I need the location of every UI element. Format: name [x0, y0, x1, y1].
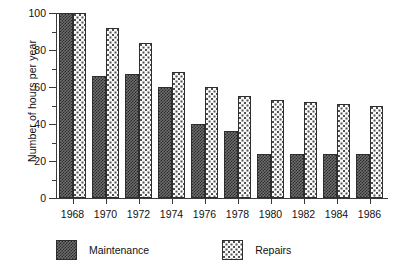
- bar-maintenance-1970: [92, 76, 106, 198]
- bar-chart: Number of hours per year 020406080100 19…: [0, 0, 402, 265]
- bar-repairs-1984: [337, 104, 351, 198]
- x-tick-label: 1982: [292, 208, 315, 220]
- bar-repairs-1986: [370, 106, 384, 199]
- bar-maintenance-1976: [191, 124, 205, 198]
- bar-repairs-1978: [238, 96, 252, 198]
- y-tick-major: [49, 161, 56, 162]
- y-tick-major: [49, 13, 56, 14]
- bar-maintenance-1978: [224, 131, 238, 198]
- bar-maintenance-1980: [257, 154, 271, 198]
- y-tick-label: 80: [34, 44, 46, 56]
- bar-maintenance-1972: [125, 74, 139, 198]
- y-tick-minor: [52, 32, 56, 33]
- y-tick-label: 60: [34, 81, 46, 93]
- x-tick: [172, 198, 173, 204]
- x-tick-label: 1970: [94, 208, 117, 220]
- chart-legend: Maintenance Repairs: [56, 240, 291, 260]
- x-tick-label: 1972: [127, 208, 150, 220]
- y-tick-minor: [52, 143, 56, 144]
- legend-label-repairs: Repairs: [255, 244, 291, 256]
- y-tick-major: [49, 87, 56, 88]
- bar-maintenance-1984: [323, 154, 337, 198]
- x-tick: [304, 198, 305, 204]
- bar-maintenance-1968: [59, 13, 73, 198]
- y-tick-major: [49, 50, 56, 51]
- x-tick-label: 1968: [61, 208, 84, 220]
- bar-repairs-1968: [73, 13, 87, 198]
- x-tick: [271, 198, 272, 204]
- y-tick-major: [49, 198, 56, 199]
- legend-swatch-repairs-icon: [222, 240, 243, 260]
- y-tick-major: [49, 124, 56, 125]
- bar-maintenance-1986: [356, 154, 370, 198]
- x-tick: [73, 198, 74, 204]
- legend-label-maintenance: Maintenance: [89, 244, 149, 256]
- bar-repairs-1976: [205, 87, 219, 198]
- legend-item-repairs: Repairs: [222, 240, 291, 260]
- bar-maintenance-1982: [290, 154, 304, 198]
- y-tick-minor: [52, 69, 56, 70]
- y-tick-label: 20: [34, 155, 46, 167]
- x-tick-label: 1986: [358, 208, 381, 220]
- x-tick-label: 1976: [193, 208, 216, 220]
- x-tick: [106, 198, 107, 204]
- y-tick-label: 40: [34, 118, 46, 130]
- bar-maintenance-1974: [158, 87, 172, 198]
- y-tick-label: 100: [28, 7, 46, 19]
- plot-area: 020406080100 196819701972197419761978198…: [56, 13, 386, 198]
- y-tick-minor: [52, 106, 56, 107]
- x-tick-label: 1978: [226, 208, 249, 220]
- bar-repairs-1974: [172, 72, 186, 198]
- bar-repairs-1970: [106, 28, 120, 198]
- x-tick: [238, 198, 239, 204]
- legend-item-maintenance: Maintenance: [56, 240, 149, 260]
- bar-repairs-1972: [139, 43, 153, 198]
- x-tick: [139, 198, 140, 204]
- y-tick-minor: [52, 180, 56, 181]
- x-tick: [370, 198, 371, 204]
- x-tick: [337, 198, 338, 204]
- x-tick-label: 1974: [160, 208, 183, 220]
- x-tick: [205, 198, 206, 204]
- bar-repairs-1980: [271, 100, 285, 198]
- bar-repairs-1982: [304, 102, 318, 198]
- legend-swatch-maintenance-icon: [56, 240, 77, 260]
- x-tick-label: 1984: [325, 208, 348, 220]
- y-axis-line: [56, 13, 57, 198]
- x-tick-label: 1980: [259, 208, 282, 220]
- y-tick-label: 0: [40, 192, 46, 204]
